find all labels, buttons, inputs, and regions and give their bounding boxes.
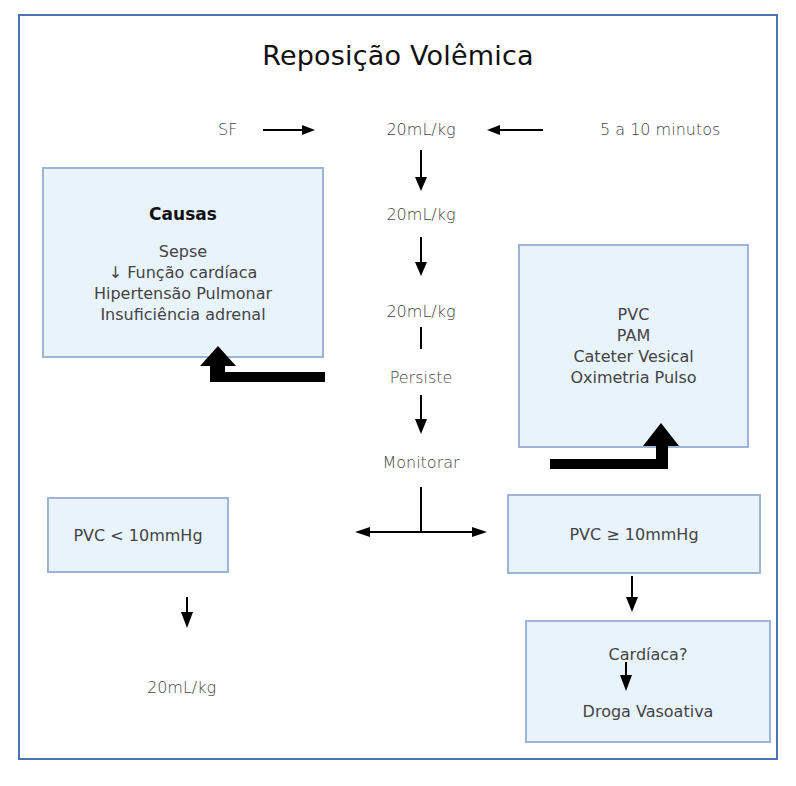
persiste-label: Persiste (390, 368, 453, 387)
pvc-high-box: PVC ≥ 10mmHg (507, 494, 761, 574)
diagram-title: Reposição Volêmica (0, 40, 796, 71)
monitor-item: Cateter Vesical (573, 346, 693, 367)
cause-item: Sepse (159, 241, 207, 262)
monitor-item: PVC (618, 304, 650, 325)
cause-item: Insuficiência adrenal (100, 304, 265, 325)
monitoring-box: PVC PAM Cateter Vesical Oximetria Pulso (518, 244, 749, 448)
cardiac-question: Cardíaca? (609, 644, 688, 665)
pvc-high-label: PVC ≥ 10mmHg (569, 524, 698, 545)
pvc-low-label: PVC < 10mmHg (73, 525, 202, 546)
monitorar-label: Monitorar (382, 453, 459, 472)
monitor-item: PAM (617, 325, 650, 346)
causes-heading: Causas (149, 204, 217, 225)
cardiac-box: Cardíaca? Droga Vasoativa (525, 620, 771, 743)
causes-box: Causas Sepse ↓ Função cardíaca Hipertens… (42, 167, 324, 358)
bolus-step-3: 20mL/kg (386, 302, 455, 321)
pvc-low-box: PVC < 10mmHg (47, 497, 229, 573)
sf-label: SF (218, 120, 237, 139)
bolus-step-2: 20mL/kg (386, 205, 455, 224)
cardiac-action: Droga Vasoativa (583, 701, 714, 722)
cause-item: Hipertensão Pulmonar (94, 283, 272, 304)
time-label: 5 a 10 minutos (600, 120, 720, 139)
cause-item: ↓ Função cardíaca (109, 262, 257, 283)
monitor-item: Oximetria Pulso (570, 367, 696, 388)
initial-bolus-label: 20mL/kg (386, 120, 455, 139)
pvc-low-result: 20mL/kg (147, 678, 216, 697)
